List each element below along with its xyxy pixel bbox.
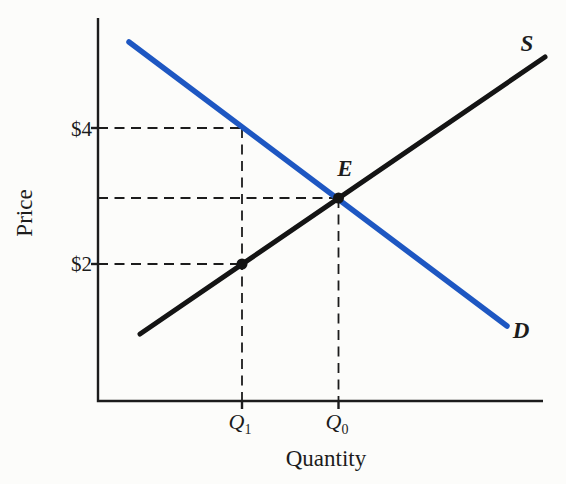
supply-demand-chart: S D E $4 $2 Q1 Q0 Price Quantity [0, 0, 566, 484]
quantity-axis-title: Quantity [286, 446, 367, 471]
q0-subscript: 0 [341, 422, 348, 437]
q1-base: Q [229, 409, 245, 434]
supply-curve-label: S [521, 31, 534, 56]
price-axis-title: Price [12, 189, 37, 236]
demand-curve [129, 42, 507, 326]
demand-curve-label: D [512, 318, 530, 343]
equilibrium-point [333, 193, 344, 204]
q0-base: Q [326, 409, 342, 434]
q1-tick-label: Q1 [229, 409, 252, 437]
supply-point-at-q1 [237, 259, 248, 270]
price-2-tick-label: $2 [71, 252, 92, 276]
q1-subscript: 1 [244, 422, 251, 437]
price-4-tick-label: $4 [71, 117, 93, 141]
equilibrium-label: E [336, 156, 352, 181]
supply-demand-figure: S D E $4 $2 Q1 Q0 Price Quantity [0, 0, 566, 484]
q0-tick-label: Q0 [326, 409, 349, 437]
